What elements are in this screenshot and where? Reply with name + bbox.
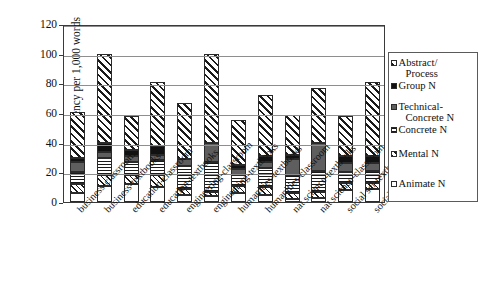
y-tick-mark	[59, 114, 63, 115]
gridline	[64, 115, 384, 116]
legend-label: Abstract/Process	[399, 57, 438, 80]
bar-segment	[97, 186, 112, 202]
legend-swatch-icon	[391, 60, 397, 66]
bar-segment	[258, 187, 273, 194]
legend-item: Technical-Concrete N	[391, 101, 454, 124]
bar-segment	[97, 152, 112, 158]
legend-item: Abstract/Process	[391, 57, 438, 80]
y-tick-mark	[59, 84, 63, 85]
legend-label: Animate N	[399, 178, 446, 189]
bar-segment	[231, 120, 246, 165]
bar-segment	[231, 165, 246, 169]
bar-segment	[177, 166, 192, 188]
bar-segment	[150, 146, 165, 155]
legend-label: Mental N	[399, 148, 439, 159]
bar-segment	[338, 156, 353, 163]
bar-segment	[70, 162, 85, 172]
bar-segment	[97, 175, 112, 185]
bar-segment	[285, 159, 300, 175]
legend-item: Concrete N	[391, 124, 447, 135]
bar-segment	[338, 116, 353, 156]
bar-segment	[70, 158, 85, 162]
bar-segment	[365, 163, 380, 170]
chart-legend: Abstract/ProcessGroup NTechnical-Concret…	[388, 52, 478, 202]
bar-segment	[338, 190, 353, 202]
bar-segment	[338, 183, 353, 190]
stacked-bar-chart: Frequency per 1,000 words 02040608010012…	[0, 0, 480, 298]
bar-segment	[285, 193, 300, 199]
bar-segment	[150, 175, 165, 187]
gridline	[64, 85, 384, 86]
bar-segment	[204, 192, 219, 196]
bar-segment	[204, 162, 219, 192]
bar-segment	[258, 195, 273, 202]
bar-segment	[70, 184, 85, 193]
legend-swatch-icon	[391, 181, 397, 187]
gridline	[64, 56, 384, 57]
y-tick-mark	[59, 203, 63, 204]
bar-segment	[177, 103, 192, 159]
bars-layer	[64, 26, 384, 202]
bar-segment	[70, 193, 85, 202]
bar-segment	[177, 189, 192, 195]
legend-label: Concrete N	[399, 124, 448, 135]
bar-segment	[338, 163, 353, 172]
bar-segment	[124, 175, 139, 184]
legend-item: Mental N	[391, 148, 439, 159]
bar-segment	[311, 192, 326, 198]
bar-segment	[124, 150, 139, 156]
bar-segment	[365, 189, 380, 202]
bar-segment	[258, 162, 273, 168]
bar-segment	[150, 82, 165, 146]
bar-segment	[285, 199, 300, 202]
bar-segment	[258, 168, 273, 187]
y-tick-label: 80	[23, 78, 57, 90]
bar-segment	[231, 175, 246, 185]
bar-segment	[285, 175, 300, 193]
legend-item: Animate N	[391, 178, 445, 189]
legend-label-line2: Process	[399, 68, 438, 79]
gridline	[64, 174, 384, 175]
y-tick-mark	[59, 173, 63, 174]
y-tick-label: 20	[23, 167, 57, 179]
bar-segment	[177, 195, 192, 202]
bar-segment	[285, 115, 300, 155]
y-tick-label: 120	[23, 19, 57, 31]
bar-segment	[311, 143, 326, 171]
bar-segment	[204, 54, 219, 143]
bar-segment	[231, 193, 246, 202]
bar-segment	[365, 183, 380, 189]
bar-segment	[70, 112, 85, 158]
bar-segment	[365, 171, 380, 183]
bar-segment	[204, 196, 219, 202]
bar-segment	[177, 159, 192, 166]
y-tick-mark	[59, 144, 63, 145]
bar-segment	[258, 156, 273, 162]
bar-segment	[285, 155, 300, 159]
bar-segment	[311, 198, 326, 202]
gridline	[64, 26, 384, 27]
legend-swatch-icon	[391, 151, 397, 157]
y-tick-label: 40	[23, 138, 57, 150]
legend-swatch-icon	[391, 104, 397, 110]
y-tick-mark	[59, 25, 63, 26]
legend-item: Group N	[391, 80, 436, 91]
bar-segment	[124, 162, 139, 175]
bar-segment	[231, 186, 246, 193]
bar-segment	[124, 184, 139, 202]
gridline	[64, 145, 384, 146]
bar-segment	[258, 95, 273, 156]
legend-label: Group N	[399, 80, 436, 91]
bar-segment	[124, 156, 139, 162]
legend-label: Technical-Concrete N	[399, 101, 455, 124]
y-tick-label: 100	[23, 49, 57, 61]
legend-swatch-icon	[391, 83, 397, 89]
bar-segment	[97, 158, 112, 176]
legend-swatch-icon	[391, 127, 397, 133]
bar-segment	[150, 187, 165, 202]
bar-segment	[150, 155, 165, 161]
bar-segment	[97, 54, 112, 143]
bar-segment	[150, 160, 165, 175]
y-tick-label: 60	[23, 108, 57, 120]
bar-segment	[365, 156, 380, 163]
